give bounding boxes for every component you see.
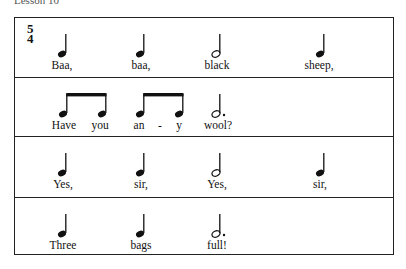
lyric-syllable: sir, <box>134 178 148 190</box>
lyric-syllable: black <box>205 59 230 71</box>
lyric-syllable: Have <box>52 119 76 131</box>
lyric-syllable: sheep, <box>304 59 333 71</box>
lyric-syllable: Yes, <box>53 178 73 190</box>
dotted-half-note-icon <box>15 204 395 244</box>
lyric-syllable: baa, <box>132 59 151 71</box>
notation-line-3: Yes,sir,Yes,sir, <box>15 136 393 197</box>
lyric-syllable: sir, <box>313 178 327 190</box>
lyric-syllable: bags <box>130 239 151 251</box>
quarter-note-icon <box>15 143 395 183</box>
notation-line-4: Threebagsfull! <box>15 197 393 255</box>
lyric-syllable: wool? <box>204 119 232 131</box>
notation-line-2: Haveyouan-ywool? <box>15 77 393 136</box>
lyric-syllable: - <box>158 119 162 131</box>
dotted-half-note-icon <box>15 84 395 124</box>
lyric-syllable: y <box>176 119 182 131</box>
quarter-note-icon <box>15 24 395 64</box>
lyric-syllable: Three <box>50 239 77 251</box>
notation-line-1: Baa,baa,blacksheep, <box>15 18 393 77</box>
lyric-syllable: full! <box>207 239 227 251</box>
lyric-syllable: you <box>91 119 108 131</box>
header-partial-text: Lesson 10 <box>14 0 59 6</box>
lyric-syllable: Yes, <box>207 178 227 190</box>
rhythm-notation-box: 5 4 Baa,baa,blacksheep,Haveyouan-ywool?Y… <box>14 17 394 255</box>
lyric-syllable: Baa, <box>52 59 73 71</box>
lyric-syllable: an <box>134 119 145 131</box>
